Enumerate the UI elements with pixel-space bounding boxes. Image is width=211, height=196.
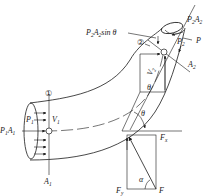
p1-label: P1 <box>25 115 34 125</box>
p-right-label: P <box>195 36 201 45</box>
section1-label: ① <box>45 89 52 98</box>
v1-label: V1 <box>52 115 60 125</box>
alpha-label: α <box>139 175 144 184</box>
section1-point <box>46 128 52 134</box>
theta-upper-label: θ <box>147 83 151 92</box>
fx-label: Fx <box>159 133 168 143</box>
bend-pipe-diagram: ① P1 V1 P1A1 A1 P2A2 P2A2sin θ ② P2 P A2… <box>0 0 211 196</box>
section2-point <box>161 49 167 55</box>
f-label: F <box>158 186 164 195</box>
section2-label: ② <box>137 38 144 47</box>
p2-label: P2 <box>176 37 185 47</box>
v2-label: V2 <box>145 66 157 77</box>
p2a2sin-label: P2A2sin θ <box>85 28 117 38</box>
p2a2-label: P2A2 <box>186 15 203 25</box>
a2-label: A2 <box>187 60 196 70</box>
fy-label: Fy <box>115 186 124 196</box>
theta-lower-label: θ <box>141 109 145 118</box>
p1a1-label: P1A1 <box>0 126 16 136</box>
a1-label: A1 <box>43 177 52 187</box>
